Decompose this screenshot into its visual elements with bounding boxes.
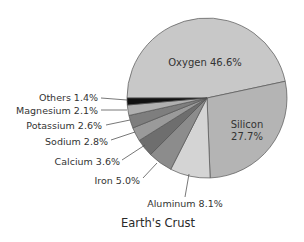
leader-potassium: [106, 120, 130, 125]
label-silicon-value: 27.7%: [231, 131, 263, 142]
leader-aluminum: [185, 174, 189, 197]
chart-title: Earth's Crust: [121, 216, 196, 230]
label-calcium: Calcium 3.6%: [55, 156, 120, 167]
label-potassium: Potassium 2.6%: [26, 120, 102, 131]
pie-slices: [127, 18, 287, 178]
leader-sodium: [111, 132, 135, 140]
label-others: Others 1.4%: [39, 92, 98, 103]
label-sodium: Sodium 2.8%: [45, 136, 108, 147]
pie-chart: Oxygen 46.6% Silicon 27.7% Others 1.4% M…: [0, 0, 304, 242]
label-oxygen: Oxygen 46.6%: [168, 57, 242, 68]
leader-others: [101, 98, 127, 100]
leader-iron: [143, 163, 157, 178]
label-aluminum: Aluminum 8.1%: [147, 198, 223, 209]
label-magnesium: Magnesium 2.1%: [16, 105, 98, 116]
label-silicon-name: Silicon: [231, 119, 264, 130]
leader-calcium: [122, 145, 145, 160]
label-iron: Iron 5.0%: [95, 175, 141, 186]
